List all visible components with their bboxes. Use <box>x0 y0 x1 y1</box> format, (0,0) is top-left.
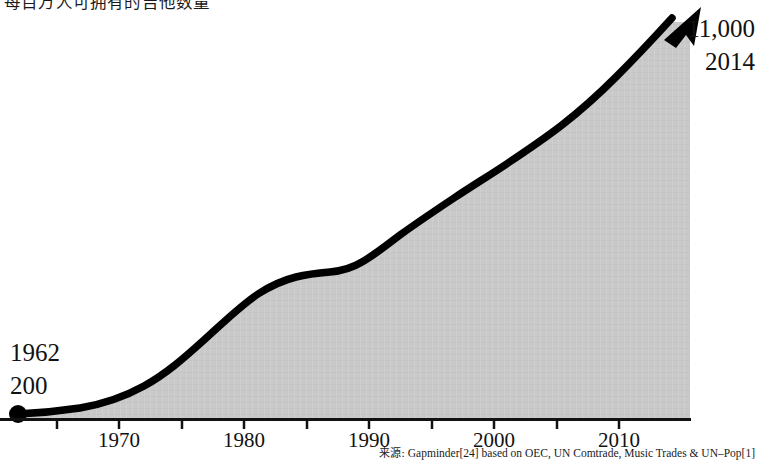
end-annotation: 11,000 2014 <box>687 12 755 78</box>
end-annotation-value: 11,000 <box>687 12 755 45</box>
area-fill <box>18 22 690 418</box>
chart-container: 每百万人可拥有的吉他数量 <box>0 0 761 466</box>
source-note: 来源: Gapminder[24] based on OEC, UN Comtr… <box>379 446 755 461</box>
x-axis-ticks <box>57 420 619 429</box>
source-note-text: Gapminder[24] based on OEC, UN Comtrade,… <box>408 447 755 459</box>
start-annotation-value: 200 <box>10 369 60 402</box>
chart-plot <box>0 0 761 466</box>
start-annotation-year: 1962 <box>10 336 60 369</box>
end-annotation-year: 2014 <box>687 45 755 78</box>
x-tick-label-1980: 1980 <box>223 428 265 452</box>
x-tick-label-1970: 1970 <box>98 428 140 452</box>
start-annotation: 1962 200 <box>10 336 60 402</box>
source-note-prefix: 来源: <box>379 447 405 460</box>
